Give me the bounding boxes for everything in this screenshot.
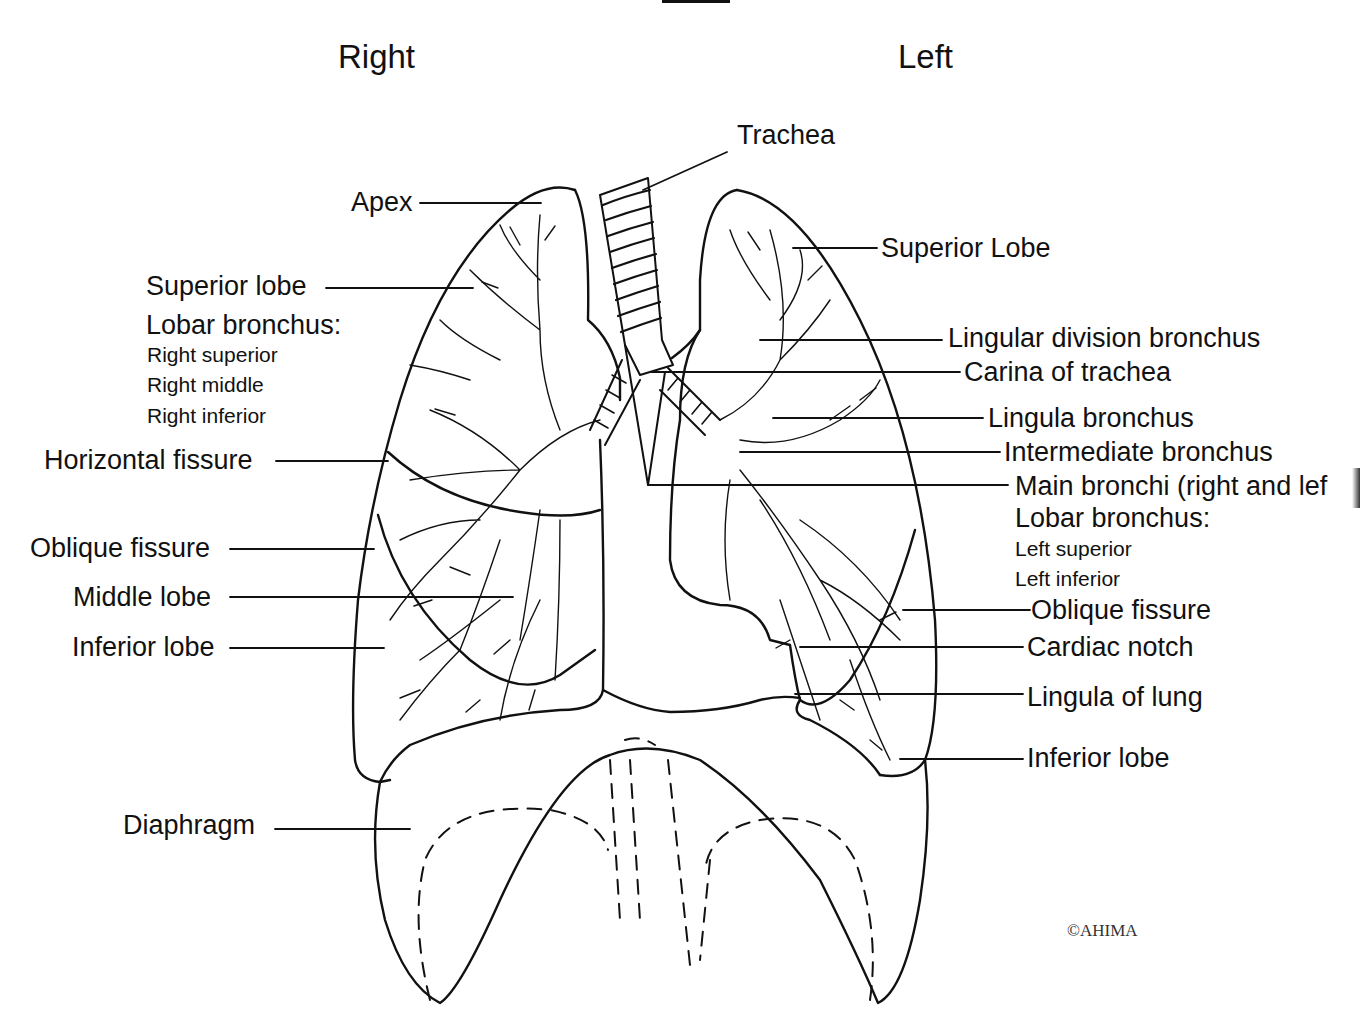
label-main-bronchi: Main bronchi (right and lef <box>1015 473 1327 500</box>
label-right-superior: Right superior <box>147 344 278 365</box>
label-middle-lobe: Middle lobe <box>73 584 211 611</box>
label-diaphragm: Diaphragm <box>123 812 255 839</box>
label-apex: Apex <box>351 189 413 216</box>
label-lingula-of-lung: Lingula of lung <box>1027 684 1203 711</box>
label-carina: Carina of trachea <box>964 359 1171 386</box>
copyright-text: ©AHIMA <box>1067 922 1138 939</box>
label-horizontal-fissure: Horizontal fissure <box>44 447 253 474</box>
label-right-inferior-lobe: Inferior lobe <box>72 634 215 661</box>
heading-right: Right <box>338 40 415 73</box>
left-lung <box>670 190 936 776</box>
label-left-superior-lobe: Superior Lobe <box>881 235 1051 262</box>
label-right-lobar-bronchus: Lobar bronchus: <box>146 312 341 339</box>
left-bronchial-tree <box>720 230 900 760</box>
mediastinum-line <box>603 690 800 712</box>
label-left-oblique-fissure: Oblique fissure <box>1031 597 1211 624</box>
label-left-inferior: Left inferior <box>1015 568 1120 589</box>
right-lung <box>353 188 620 783</box>
label-trachea: Trachea <box>737 122 835 149</box>
label-right-middle: Right middle <box>147 374 264 395</box>
heading-left: Left <box>898 40 953 73</box>
label-left-superior: Left superior <box>1015 538 1132 559</box>
label-right-inferior: Right inferior <box>147 405 266 426</box>
label-lingula-bronchus: Lingula bronchus <box>988 405 1194 432</box>
label-intermediate-bronchus: Intermediate bronchus <box>1004 439 1273 466</box>
label-left-inferior-lobe: Inferior lobe <box>1027 745 1170 772</box>
label-right-oblique-fissure: Oblique fissure <box>30 535 210 562</box>
trachea-illustration <box>590 178 720 485</box>
label-cardiac-notch: Cardiac notch <box>1027 634 1194 661</box>
diaphragm <box>375 738 928 1003</box>
label-right-superior-lobe: Superior lobe <box>146 273 307 300</box>
right-bronchial-tree <box>390 215 600 720</box>
label-lingular-division-bronchus: Lingular division bronchus <box>948 325 1260 352</box>
label-left-lobar-bronchus: Lobar bronchus: <box>1015 505 1210 532</box>
